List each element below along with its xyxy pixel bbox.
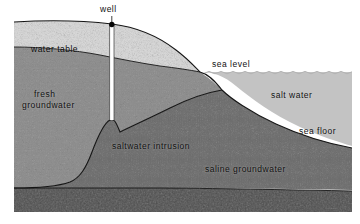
label-sea-floor: sea floor [299,126,336,136]
label-water-table: water table [31,44,78,54]
label-fresh-groundwater: fresh groundwater [34,89,75,111]
label-saline-groundwater: saline groundwater [205,164,286,174]
label-salt-water: salt water [271,90,312,100]
bedrock-texture [14,188,352,212]
label-saltwater-intrusion: saltwater intrusion [112,141,190,151]
well-head-marker [109,22,114,27]
well-casing [110,24,114,120]
label-well: well [100,4,117,14]
label-fresh-groundwater-line2: groundwater [22,100,75,111]
label-sea-level: sea level [212,59,250,69]
diagram-figure: well water table fresh groundwater sea l… [0,0,360,224]
cross-section-svg [0,0,360,224]
label-fresh-groundwater-line1: fresh [34,89,55,99]
